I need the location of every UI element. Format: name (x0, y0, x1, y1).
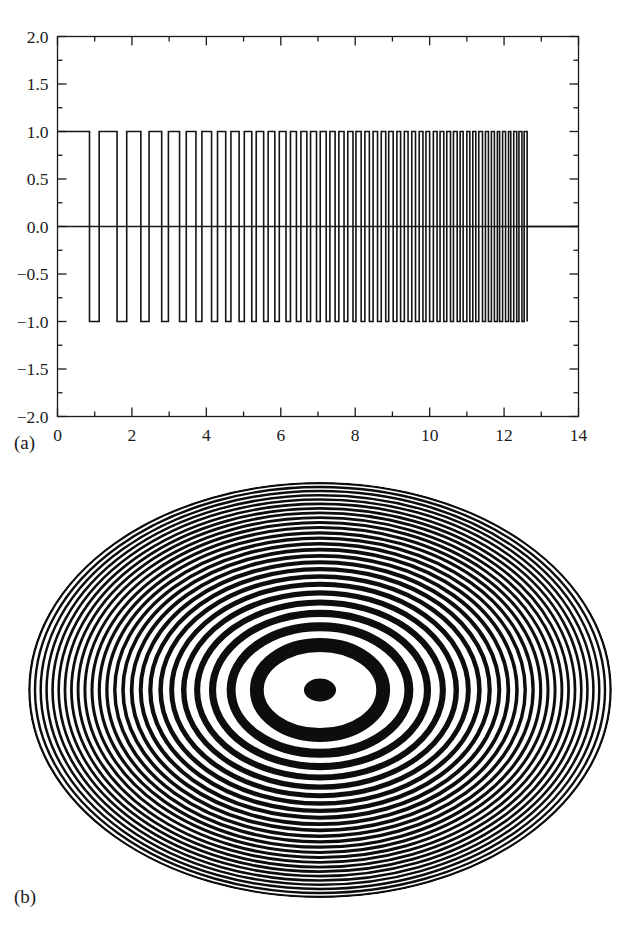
x-tick-label: 4 (202, 425, 211, 445)
x-tick-label: 8 (351, 425, 360, 445)
zone-plate-rings (28, 482, 612, 898)
y-tick-label: −2.0 (17, 407, 49, 427)
panel-b-zone-plate (0, 470, 637, 935)
panel-a-label: (a) (14, 432, 35, 454)
y-tick-label: 0.5 (27, 169, 49, 189)
x-tick-label: 14 (570, 425, 588, 445)
y-tick-label: −1.5 (17, 359, 49, 379)
y-tick-label: 2.0 (27, 27, 49, 47)
zone-plate-core-disc (304, 679, 336, 702)
x-tick-label: 2 (128, 425, 137, 445)
y-tick-label: −0.5 (17, 264, 49, 284)
y-tick-label: 1.0 (27, 122, 49, 142)
chart-b-svg (0, 470, 637, 935)
x-tick-label: 10 (421, 425, 439, 445)
x-tick-label: 12 (495, 425, 513, 445)
y-tick-label: 1.5 (27, 74, 49, 94)
x-tick-label: 0 (53, 425, 62, 445)
panel-a-square-wave-chirp: 02468101214−2.0−1.5−1.0−0.50.00.51.01.52… (0, 0, 637, 470)
figure-root: 02468101214−2.0−1.5−1.0−0.50.00.51.01.52… (0, 0, 637, 935)
y-tick-label: −1.0 (17, 312, 49, 332)
x-tick-label: 6 (276, 425, 285, 445)
panel-b-label: (b) (14, 886, 36, 908)
y-tick-label: 0.0 (27, 217, 49, 237)
chart-a-svg: 02468101214−2.0−1.5−1.0−0.50.00.51.01.52… (0, 0, 637, 470)
